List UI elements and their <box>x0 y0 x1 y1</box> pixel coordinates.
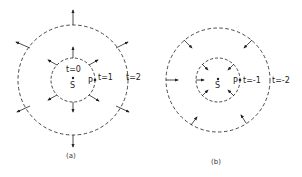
figure: t=0 S P t=1 t=2 (a) S P t=-1 t=- <box>0 0 302 177</box>
caption-b: (b) <box>211 158 221 166</box>
center-label-a: S <box>70 81 75 90</box>
source-point-a <box>72 77 74 79</box>
outer-inward-arrows <box>166 40 252 125</box>
point-label-a: P <box>88 77 93 86</box>
center-label-b: S <box>215 81 220 90</box>
inner-label-a: t=1 <box>98 73 113 82</box>
outer-label-a: t=2 <box>126 73 141 82</box>
caption-a: (a) <box>66 152 76 160</box>
source-point-b <box>217 78 219 80</box>
panel-a: t=0 S P t=1 t=2 (a) <box>16 10 141 160</box>
point-label-b: P <box>233 77 238 86</box>
wavefront-diagrams: t=0 S P t=1 t=2 (a) S P t=-1 t=- <box>0 0 302 177</box>
outer-label-b: t=-2 <box>272 76 290 85</box>
start-label-a: t=0 <box>66 65 81 74</box>
inner-inward-arrows <box>196 64 234 96</box>
panel-b: S P t=-1 t=-2 (b) <box>166 28 290 166</box>
point-p-b <box>239 79 242 82</box>
point-p-a <box>94 79 97 82</box>
inner-label-b: t=-1 <box>243 76 261 85</box>
